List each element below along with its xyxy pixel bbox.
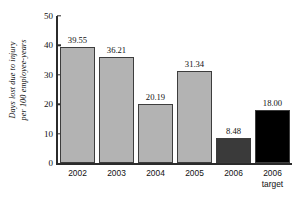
y-axis-tick-label: 20 [36, 99, 53, 109]
plot-area: 39.5536.2120.1931.348.4818.00 [58, 16, 292, 163]
y-axis-tick-label: 30 [36, 70, 53, 80]
bar-group: 18.00 [253, 16, 292, 163]
y-axis-title: Days lost due to injury per 100 employee… [8, 5, 38, 155]
x-axis-category-label-line: 2004 [136, 168, 175, 179]
x-axis-category-label-line: 2006 [214, 168, 253, 179]
bar-group: 8.48 [214, 16, 253, 163]
bar-value-label: 20.19 [136, 92, 175, 102]
bar[interactable] [255, 110, 290, 163]
x-axis-category-label: 2005 [175, 168, 214, 179]
y-axis-title-line-1: Days lost due to injury [8, 5, 19, 155]
bar[interactable] [99, 57, 134, 163]
bar-group: 20.19 [136, 16, 175, 163]
bar-value-label: 18.00 [253, 98, 292, 108]
bar-group: 39.55 [58, 16, 97, 163]
x-axis-category-label: 2003 [97, 168, 136, 179]
bar[interactable] [177, 71, 212, 163]
bar-value-label: 36.21 [97, 45, 136, 55]
bar-group: 31.34 [175, 16, 214, 163]
x-axis-category-label-line: 2005 [175, 168, 214, 179]
x-axis-category-label: 2006 [214, 168, 253, 179]
x-axis-category-label-line: 2003 [97, 168, 136, 179]
x-axis-category-labels: 200220032004200520062006target [58, 168, 292, 198]
bar-value-label: 39.55 [58, 35, 97, 45]
bar[interactable] [60, 47, 95, 163]
x-axis-category-label-line: target [253, 179, 292, 190]
x-axis-category-label-line: 2002 [58, 168, 97, 179]
x-axis-category-label: 2002 [58, 168, 97, 179]
bar[interactable] [138, 104, 173, 163]
y-axis-tick-label: 40 [36, 40, 53, 50]
x-axis-line [56, 163, 292, 165]
x-axis-category-label: 2004 [136, 168, 175, 179]
y-axis-tick-label: 50 [36, 11, 53, 21]
bar-value-label: 8.48 [214, 126, 253, 136]
bar-value-label: 31.34 [175, 59, 214, 69]
y-axis-tick-labels: 01020304050 [36, 0, 53, 200]
bar-group: 36.21 [97, 16, 136, 163]
bar[interactable] [216, 138, 251, 163]
x-axis-category-label-line: 2006 [253, 168, 292, 179]
x-axis-category-label: 2006target [253, 168, 292, 190]
y-axis-title-line-2: per 100 employee-years [19, 5, 30, 155]
y-axis-tick-label: 10 [36, 129, 53, 139]
y-axis-tick-label: 0 [36, 158, 53, 168]
bar-chart: Days lost due to injury per 100 employee… [0, 0, 298, 200]
